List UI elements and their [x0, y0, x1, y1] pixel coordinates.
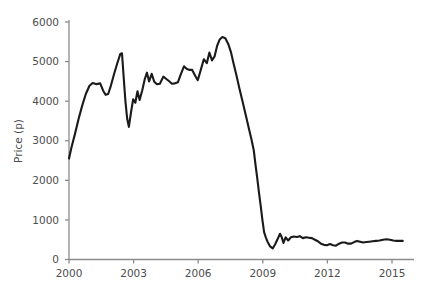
y-tick-label: 6000	[32, 16, 59, 28]
chart-background	[0, 0, 422, 303]
y-tick-label: 4000	[32, 95, 59, 107]
y-tick-label: 3000	[32, 134, 59, 146]
y-tick-label: 0	[52, 253, 59, 265]
x-tick-label: 2000	[56, 267, 83, 279]
x-tick-label: 2015	[379, 267, 406, 279]
x-tick-label: 2006	[185, 267, 212, 279]
chart-container: 0100020003000400050006000 20002003200620…	[0, 0, 422, 303]
y-axis-title: Price (p)	[12, 119, 24, 163]
x-tick-label: 2003	[120, 267, 147, 279]
x-tick-label: 2009	[249, 267, 276, 279]
y-tick-label: 5000	[32, 55, 59, 67]
y-tick-label: 1000	[32, 214, 59, 226]
line-chart: 0100020003000400050006000 20002003200620…	[0, 0, 422, 303]
y-tick-label: 2000	[32, 174, 59, 186]
x-tick-label: 2012	[314, 267, 341, 279]
